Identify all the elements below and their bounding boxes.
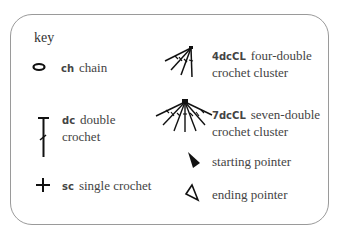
desc-7dccl-line2: crochet cluster <box>212 124 320 140</box>
desc-ch: chain <box>79 60 107 75</box>
desc-dc-line2: crochet <box>62 129 115 145</box>
desc-ending-pointer: ending pointer <box>212 187 287 202</box>
abbr-sc: sc <box>62 181 74 192</box>
desc-dc-line1: double <box>80 112 115 127</box>
desc-7dccl-line1: seven-double <box>251 107 320 122</box>
legend-entry-starting-pointer: starting pointer <box>212 154 291 170</box>
desc-sc: single crochet <box>79 178 152 193</box>
starting-pointer-icon <box>186 151 202 169</box>
ending-pointer-icon <box>184 184 200 202</box>
four-dc-cluster-icon <box>163 44 199 78</box>
chain-oval-icon <box>32 62 48 72</box>
legend-entry-4dccl: 4dcCLfour-double crochet cluster <box>212 48 312 81</box>
abbr-ch: ch <box>61 63 74 74</box>
legend-entry-ch: chchain <box>61 60 107 77</box>
double-crochet-icon <box>36 116 52 158</box>
desc-starting-pointer: starting pointer <box>212 154 291 169</box>
legend-entry-7dccl: 7dcCLseven-double crochet cluster <box>212 107 320 140</box>
desc-4dccl-line1: four-double <box>251 48 312 63</box>
abbr-7dccl: 7dcCL <box>212 110 246 121</box>
abbr-dc: dc <box>62 115 75 126</box>
desc-4dccl-line2: crochet cluster <box>212 65 312 81</box>
seven-dc-cluster-icon <box>155 98 213 132</box>
legend-entry-dc: dcdouble crochet <box>62 112 115 145</box>
single-crochet-plus-icon <box>35 177 51 193</box>
legend-entry-sc: scsingle crochet <box>62 178 151 195</box>
abbr-4dccl: 4dcCL <box>212 51 246 62</box>
legend-entry-ending-pointer: ending pointer <box>212 187 287 203</box>
key-title: key <box>34 30 54 46</box>
